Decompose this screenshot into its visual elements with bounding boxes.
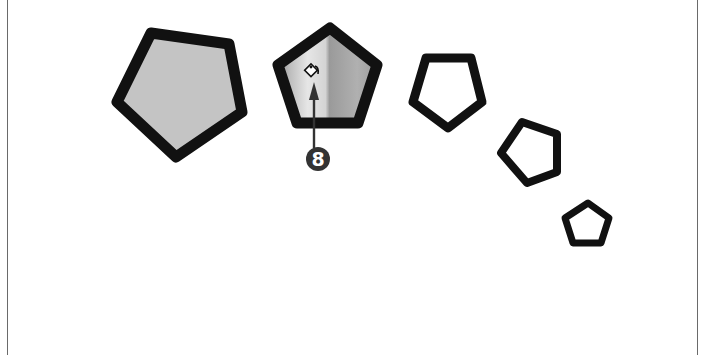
pentagon-small-outline	[501, 122, 557, 183]
pentagon-medium-outline	[413, 58, 482, 128]
pentagon-smallest-outline	[565, 203, 609, 243]
callout-badge: 8	[306, 147, 330, 171]
callout-number: 8	[311, 148, 324, 170]
pentagon-diagram: 8	[0, 0, 709, 355]
pentagon-medium-gradient	[278, 28, 377, 123]
pentagon-large-filled	[117, 33, 242, 157]
